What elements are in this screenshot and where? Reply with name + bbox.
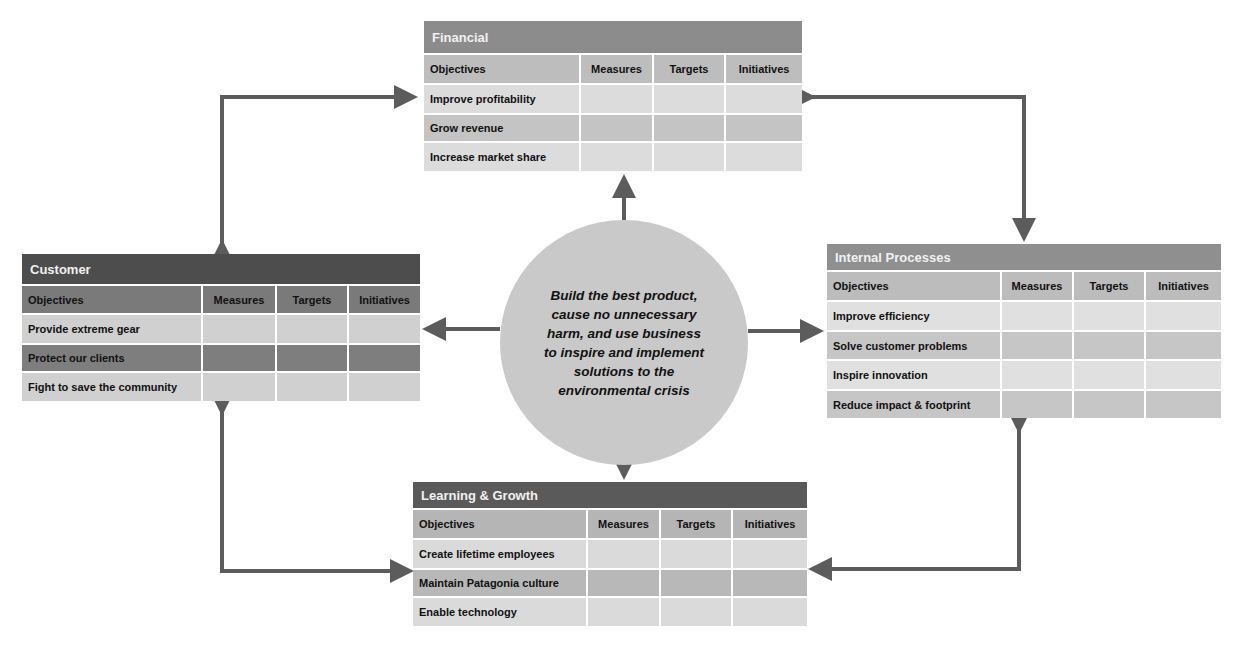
learning-header-row: Objectives Measures Targets Initiatives [413, 508, 807, 538]
measure-cell[interactable] [1002, 391, 1074, 418]
table-row: Reduce impact & footprint [827, 389, 1221, 418]
customer-panel: Customer Objectives Measures Targets Ini… [22, 254, 420, 401]
objective-cell: Increase market share [424, 143, 581, 171]
measure-cell[interactable] [588, 540, 661, 568]
initiative-cell[interactable] [1146, 332, 1221, 359]
target-cell[interactable] [1074, 332, 1146, 359]
initiative-cell[interactable] [349, 373, 420, 401]
target-cell[interactable] [277, 345, 349, 371]
measure-cell[interactable] [588, 570, 661, 596]
objective-cell: Inspire innovation [827, 361, 1002, 389]
col-objectives: Objectives [22, 286, 203, 313]
col-initiatives: Initiatives [733, 510, 807, 538]
col-initiatives: Initiatives [1146, 272, 1221, 300]
target-cell[interactable] [661, 540, 733, 568]
measure-cell[interactable] [1002, 361, 1074, 389]
arrow-customer-learning [222, 410, 408, 571]
table-row: Solve customer problems [827, 330, 1221, 359]
objective-cell: Enable technology [413, 598, 588, 626]
table-row: Improve profitability [424, 83, 802, 113]
target-cell[interactable] [661, 570, 733, 596]
target-cell[interactable] [1074, 302, 1146, 330]
table-row: Provide extreme gear [22, 313, 420, 343]
initiative-cell[interactable] [1146, 361, 1221, 389]
measure-cell[interactable] [581, 85, 654, 113]
target-cell[interactable] [654, 143, 726, 171]
initiative-cell[interactable] [733, 540, 807, 568]
table-row: Grow revenue [424, 113, 802, 141]
col-initiatives: Initiatives [349, 286, 420, 313]
objective-cell: Protect our clients [22, 345, 203, 371]
learning-growth-title: Learning & Growth [413, 482, 807, 508]
initiative-cell[interactable] [349, 315, 420, 343]
col-targets: Targets [277, 286, 349, 313]
measure-cell[interactable] [1002, 332, 1074, 359]
internal-processes-title: Internal Processes [827, 244, 1221, 270]
target-cell[interactable] [661, 598, 733, 626]
col-measures: Measures [1002, 272, 1074, 300]
internal-header-row: Objectives Measures Targets Initiatives [827, 270, 1221, 300]
target-cell[interactable] [654, 85, 726, 113]
target-cell[interactable] [277, 373, 349, 401]
table-row: Protect our clients [22, 343, 420, 371]
mission-statement: Build the best product, cause no unneces… [544, 286, 704, 400]
table-row: Fight to save the community [22, 371, 420, 401]
objective-cell: Improve efficiency [827, 302, 1002, 330]
initiative-cell[interactable] [733, 570, 807, 596]
target-cell[interactable] [277, 315, 349, 343]
initiative-cell[interactable] [726, 85, 802, 113]
col-measures: Measures [588, 510, 661, 538]
col-objectives: Objectives [827, 272, 1002, 300]
objective-cell: Solve customer problems [827, 332, 1002, 359]
initiative-cell[interactable] [1146, 391, 1221, 418]
table-row: Enable technology [413, 596, 807, 626]
col-initiatives: Initiatives [726, 55, 802, 83]
measure-cell[interactable] [581, 115, 654, 141]
col-targets: Targets [654, 55, 726, 83]
arrow-internal-learning [814, 428, 1019, 569]
objective-cell: Reduce impact & footprint [827, 391, 1002, 418]
measure-cell[interactable] [581, 143, 654, 171]
col-targets: Targets [1074, 272, 1146, 300]
table-row: Maintain Patagonia culture [413, 568, 807, 596]
target-cell[interactable] [1074, 361, 1146, 389]
col-objectives: Objectives [413, 510, 588, 538]
col-targets: Targets [661, 510, 733, 538]
measure-cell[interactable] [588, 598, 661, 626]
table-row: Inspire innovation [827, 359, 1221, 389]
col-objectives: Objectives [424, 55, 581, 83]
objective-cell: Provide extreme gear [22, 315, 203, 343]
initiative-cell[interactable] [1146, 302, 1221, 330]
learning-growth-panel: Learning & Growth Objectives Measures Ta… [413, 482, 807, 626]
mission-circle: Build the best product, cause no unneces… [500, 220, 748, 465]
financial-header-row: Objectives Measures Targets Initiatives [424, 53, 802, 83]
measure-cell[interactable] [203, 345, 277, 371]
target-cell[interactable] [654, 115, 726, 141]
objective-cell: Fight to save the community [22, 373, 203, 401]
initiative-cell[interactable] [349, 345, 420, 371]
initiative-cell[interactable] [726, 115, 802, 141]
measure-cell[interactable] [203, 373, 277, 401]
table-row: Increase market share [424, 141, 802, 171]
col-measures: Measures [581, 55, 654, 83]
objective-cell: Create lifetime employees [413, 540, 588, 568]
target-cell[interactable] [1074, 391, 1146, 418]
table-row: Create lifetime employees [413, 538, 807, 568]
objective-cell: Maintain Patagonia culture [413, 570, 588, 596]
arrow-financial-internal [810, 97, 1024, 236]
initiative-cell[interactable] [733, 598, 807, 626]
table-row: Improve efficiency [827, 300, 1221, 330]
financial-panel: Financial Objectives Measures Targets In… [424, 21, 802, 171]
customer-title: Customer [22, 254, 420, 284]
financial-title: Financial [424, 21, 802, 53]
col-measures: Measures [203, 286, 277, 313]
internal-processes-panel: Internal Processes Objectives Measures T… [827, 244, 1221, 418]
objective-cell: Improve profitability [424, 85, 581, 113]
objective-cell: Grow revenue [424, 115, 581, 141]
measure-cell[interactable] [203, 315, 277, 343]
initiative-cell[interactable] [726, 143, 802, 171]
customer-header-row: Objectives Measures Targets Initiatives [22, 284, 420, 313]
measure-cell[interactable] [1002, 302, 1074, 330]
arrow-customer-financial [222, 97, 412, 245]
